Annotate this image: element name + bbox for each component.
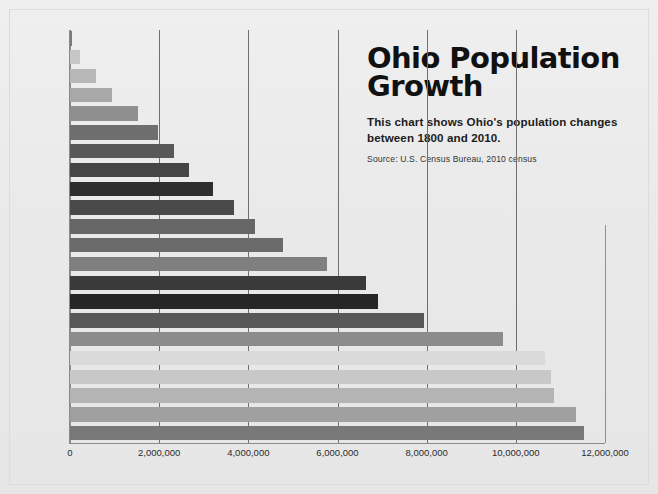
bar-row: 1930	[70, 274, 605, 293]
bar	[70, 238, 283, 252]
bar-row: 1890	[70, 199, 605, 218]
bar-rows: 1800181018201830184018501860187018801890…	[70, 30, 605, 443]
bar-row: 2000	[70, 406, 605, 425]
bar-row: 1980	[70, 368, 605, 387]
bar	[70, 313, 424, 327]
bar-chart-plot-area: 1800181018201830184018501860187018801890…	[70, 30, 605, 443]
x-axis-ticklabel: 10,000,000	[492, 447, 540, 458]
bar	[70, 106, 138, 120]
bar	[70, 88, 112, 102]
bar-row: 1920	[70, 256, 605, 275]
bar-row: 1800	[70, 30, 605, 49]
bar	[70, 276, 366, 290]
bar-row: 1970	[70, 350, 605, 369]
bar-row: 1910	[70, 237, 605, 256]
bar-row: 1840	[70, 105, 605, 124]
bar-row: 1900	[70, 218, 605, 237]
bar-row: 1990	[70, 387, 605, 406]
bar	[70, 31, 72, 45]
bar	[70, 50, 80, 64]
chart-page: Ohio Population Growth This chart shows …	[0, 0, 658, 494]
bar	[70, 219, 255, 233]
bar	[70, 163, 189, 177]
bar	[70, 332, 503, 346]
bar-row: 1940	[70, 293, 605, 312]
bar	[70, 257, 327, 271]
bar	[70, 407, 576, 421]
bar-row: 1960	[70, 331, 605, 350]
x-axis-ticklabel: 0	[67, 447, 72, 458]
bar	[70, 294, 378, 308]
bar-row: 1880	[70, 180, 605, 199]
bar-row: 1820	[70, 68, 605, 87]
x-axis-ticklabels: 02,000,0004,000,0006,000,0008,000,00010,…	[70, 447, 605, 463]
bar	[70, 144, 174, 158]
bar	[70, 125, 158, 139]
bar	[70, 426, 584, 440]
bar	[70, 388, 554, 402]
x-axis-ticklabel: 6,000,000	[316, 447, 358, 458]
x-axis-ticklabel: 2,000,000	[138, 447, 180, 458]
bar	[70, 69, 96, 83]
bar-row: 2010	[70, 425, 605, 444]
bar-row: 1810	[70, 49, 605, 68]
bar-row: 1860	[70, 143, 605, 162]
x-axis-ticklabel: 8,000,000	[406, 447, 448, 458]
x-axis-ticklabel: 12,000,000	[581, 447, 629, 458]
bar-row: 1850	[70, 124, 605, 143]
bar	[70, 351, 545, 365]
bar-row: 1950	[70, 312, 605, 331]
bar	[70, 200, 234, 214]
bar	[70, 370, 551, 384]
bar-row: 1830	[70, 86, 605, 105]
bar-row: 1870	[70, 162, 605, 181]
x-axis-ticklabel: 4,000,000	[227, 447, 269, 458]
bar	[70, 182, 213, 196]
gridline-12000000	[605, 225, 606, 443]
